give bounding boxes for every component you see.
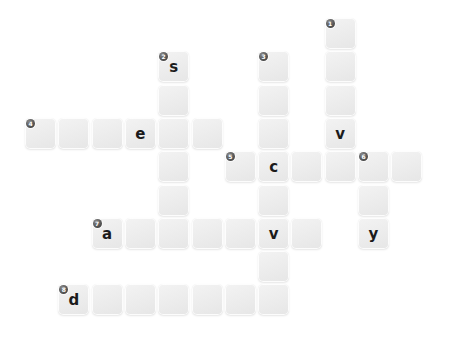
crossword-cell[interactable]: 4 — [25, 118, 56, 149]
crossword-cell[interactable] — [258, 185, 289, 216]
clue-number-badge: 4 — [26, 119, 35, 128]
cell-letter: v — [258, 218, 289, 249]
crossword-cell[interactable]: 2s — [158, 51, 189, 82]
clue-number-badge: 5 — [226, 152, 235, 161]
cell-letter: s — [158, 51, 189, 82]
crossword-cell[interactable] — [258, 118, 289, 149]
crossword-cell[interactable] — [158, 118, 189, 149]
crossword-cell[interactable] — [158, 284, 189, 315]
crossword-cell[interactable]: e — [125, 118, 156, 149]
crossword-cell[interactable]: 6 — [358, 151, 389, 182]
crossword-cell[interactable] — [158, 151, 189, 182]
crossword-cell[interactable] — [158, 85, 189, 116]
crossword-cell[interactable] — [225, 284, 256, 315]
crossword-cell[interactable] — [258, 251, 289, 282]
crossword-cell[interactable] — [225, 218, 256, 249]
cell-letter: c — [258, 151, 289, 182]
crossword-cell[interactable]: 5 — [225, 151, 256, 182]
crossword-cell[interactable]: 1 — [325, 18, 356, 49]
crossword-cell[interactable] — [391, 151, 422, 182]
crossword-cell[interactable]: c — [258, 151, 289, 182]
crossword-cell[interactable] — [125, 284, 156, 315]
crossword-cell[interactable] — [92, 118, 123, 149]
crossword-cell[interactable]: v — [325, 118, 356, 149]
crossword-cell[interactable] — [325, 151, 356, 182]
crossword-cell[interactable] — [291, 151, 322, 182]
crossword-cell[interactable] — [291, 218, 322, 249]
crossword-cell[interactable] — [258, 85, 289, 116]
crossword-cell[interactable]: v — [258, 218, 289, 249]
crossword-cell[interactable] — [58, 118, 89, 149]
crossword-cell[interactable]: 8d — [58, 284, 89, 315]
clue-number-badge: 3 — [259, 52, 268, 61]
crossword-cell[interactable] — [192, 284, 223, 315]
crossword-cell[interactable] — [125, 218, 156, 249]
crossword-cell[interactable] — [158, 185, 189, 216]
crossword-cell[interactable] — [92, 284, 123, 315]
crossword-cell[interactable]: 3 — [258, 51, 289, 82]
crossword-cell[interactable]: 7a — [92, 218, 123, 249]
crossword-cell[interactable] — [258, 284, 289, 315]
crossword-cell[interactable] — [192, 118, 223, 149]
crossword-cell[interactable] — [358, 185, 389, 216]
crossword-cell[interactable] — [192, 218, 223, 249]
cell-letter: v — [325, 118, 356, 149]
crossword-cell[interactable] — [325, 51, 356, 82]
crossword-board: 1v2s3cv4e56y7a8d — [0, 0, 450, 348]
crossword-cell[interactable] — [158, 218, 189, 249]
cell-letter: e — [125, 118, 156, 149]
clue-number-badge: 1 — [326, 19, 335, 28]
cell-letter: y — [358, 218, 389, 249]
crossword-cell[interactable]: y — [358, 218, 389, 249]
cell-letter: a — [92, 218, 123, 249]
clue-number-badge: 6 — [359, 152, 368, 161]
crossword-cell[interactable] — [325, 85, 356, 116]
cell-letter: d — [58, 284, 89, 315]
